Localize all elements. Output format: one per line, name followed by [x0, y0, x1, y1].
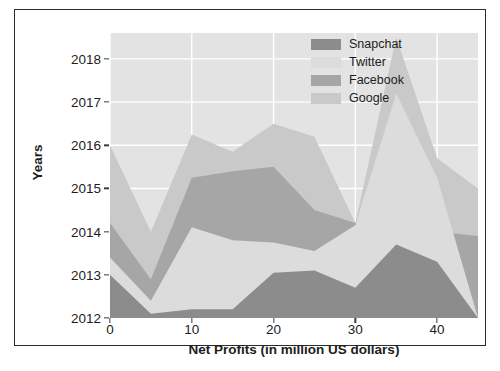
legend-swatch-icon [311, 39, 341, 50]
legend-label: Google [349, 92, 389, 105]
legend-label: Facebook [349, 74, 404, 87]
legend-label: Snapchat [349, 38, 402, 51]
y-tick-mark [104, 188, 109, 189]
y-tick-label: 2012 [71, 311, 101, 326]
y-tick-mark [104, 274, 109, 275]
y-tick-label: 2013 [71, 267, 101, 282]
y-tick-label: 2017 [71, 95, 101, 110]
y-tick-label: 2018 [71, 51, 101, 66]
figure: Years 2012201320142015201620172018 01020… [0, 0, 500, 371]
x-tick-label: 20 [266, 322, 281, 337]
y-tick-mark [104, 231, 109, 232]
x-axis-title: Net Profits (in million US dollars) [110, 342, 478, 357]
y-axis-tick-labels: 2012201320142015201620172018 [43, 33, 101, 318]
legend-item-twitter[interactable]: Twitter [311, 56, 404, 69]
y-tick-mark [104, 58, 109, 59]
y-tick-label: 2016 [71, 138, 101, 153]
legend-item-google[interactable]: Google [311, 92, 404, 105]
x-tick-label: 30 [348, 322, 363, 337]
x-tick-label: 40 [430, 322, 445, 337]
x-tick-label: 10 [184, 322, 199, 337]
y-tick-mark [104, 317, 109, 318]
x-axis-tick-labels: 010203040 [110, 322, 478, 344]
legend-swatch-icon [311, 93, 341, 104]
y-tick-mark [104, 101, 109, 102]
area-series-group [110, 37, 478, 318]
legend-swatch-icon [311, 57, 341, 68]
y-tick-mark [104, 145, 109, 146]
legend-item-snapchat[interactable]: Snapchat [311, 38, 404, 51]
stacked-area-svg [110, 33, 478, 318]
y-tick-label: 2015 [71, 181, 101, 196]
legend-swatch-icon [311, 75, 341, 86]
y-tick-label: 2014 [71, 224, 101, 239]
legend-item-facebook[interactable]: Facebook [311, 74, 404, 87]
plot-area [110, 33, 478, 318]
x-tick-label: 0 [106, 322, 114, 337]
legend: SnapchatTwitterFacebookGoogle [311, 38, 404, 105]
chart-frame: Years 2012201320142015201620172018 01020… [14, 9, 486, 346]
legend-label: Twitter [349, 56, 386, 69]
